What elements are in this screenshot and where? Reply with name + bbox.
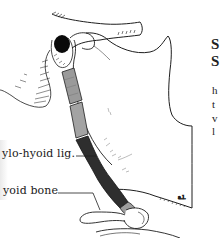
side-body-line-2: t: [212, 98, 215, 111]
anatomical-figure: a.l.: [0, 0, 220, 238]
hyoid-bone-label: yoid bone: [3, 184, 58, 197]
hyoid-leader: [58, 193, 100, 210]
stylohyoid-ligament-label: ylo-hyoid lig.: [2, 147, 75, 160]
soft-tissue-hatching: [104, 108, 132, 172]
side-body-line-3: v: [212, 112, 218, 125]
stylohyoid-ligament: [62, 68, 138, 218]
mastoid-process: [0, 50, 51, 107]
svg-text:a.l.: a.l.: [178, 194, 186, 200]
side-body-line-1: h: [212, 84, 218, 97]
ear-canal: [51, 35, 73, 68]
side-heading-line-1: S: [211, 36, 219, 53]
skull-mandible-illustration: a.l.: [0, 0, 220, 238]
hyoid-bone: [80, 208, 180, 238]
side-body-line-4: l: [212, 125, 215, 138]
side-heading-line-2: S: [211, 53, 219, 70]
